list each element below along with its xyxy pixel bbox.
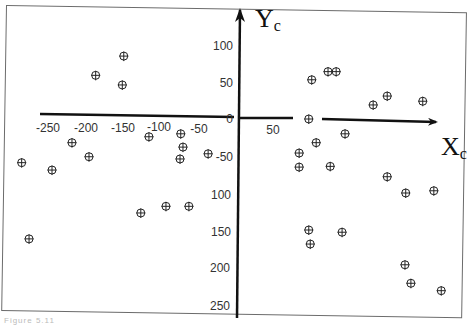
crosshair-marker-icon bbox=[369, 100, 378, 110]
x-axis-label: Xc bbox=[441, 132, 467, 162]
svg-text:-100: -100 bbox=[147, 120, 171, 134]
crosshair-marker-icon bbox=[338, 228, 347, 238]
crosshair-marker-icon bbox=[401, 189, 410, 199]
crosshair-marker-icon bbox=[184, 202, 193, 212]
svg-text:50: 50 bbox=[266, 123, 280, 137]
crosshair-marker-icon bbox=[304, 226, 313, 236]
figure-caption: Figure 5.11 bbox=[4, 316, 55, 325]
svg-text:100: 100 bbox=[213, 39, 233, 53]
crosshair-marker-icon bbox=[341, 129, 350, 139]
crosshair-marker-icon bbox=[295, 163, 304, 173]
crosshair-marker-icon bbox=[312, 138, 321, 148]
y-axis-label: Yc bbox=[255, 4, 281, 34]
crosshair-marker-icon bbox=[136, 208, 145, 218]
svg-text:-50: -50 bbox=[216, 150, 234, 164]
crosshair-marker-icon bbox=[332, 67, 341, 77]
crosshair-marker-icon bbox=[400, 260, 409, 270]
crosshair-marker-icon bbox=[324, 67, 333, 77]
crosshair-marker-icon bbox=[418, 97, 427, 107]
y-axis bbox=[235, 8, 245, 318]
crosshair-marker-icon bbox=[25, 234, 34, 244]
crosshair-marker-icon bbox=[48, 166, 57, 176]
crosshair-marker-icon bbox=[437, 286, 446, 296]
crosshair-marker-icon bbox=[176, 129, 185, 139]
crosshair-marker-icon bbox=[429, 186, 438, 196]
crosshair-marker-icon bbox=[304, 115, 313, 125]
crosshair-marker-icon bbox=[91, 71, 100, 81]
crosshair-marker-icon bbox=[67, 138, 76, 148]
crosshair-marker-icon bbox=[383, 172, 392, 182]
crosshair-marker-icon bbox=[406, 279, 415, 289]
svg-text:50: 50 bbox=[220, 76, 234, 90]
crosshair-marker-icon bbox=[204, 149, 213, 159]
svg-text:150: 150 bbox=[211, 225, 231, 239]
svg-text:-250: -250 bbox=[36, 121, 60, 135]
crosshair-marker-icon bbox=[307, 75, 316, 85]
svg-text:100: 100 bbox=[211, 188, 231, 202]
crosshair-marker-icon bbox=[85, 152, 94, 162]
svg-text:250: 250 bbox=[210, 299, 230, 313]
y-tick-labels: 100 50 0 -50 100 150 200 250 bbox=[210, 39, 233, 313]
svg-text:200: 200 bbox=[210, 261, 230, 275]
crosshair-marker-icon bbox=[161, 202, 170, 212]
scatter-plot: Yc Xc -250 -200 -150 -100 -50 50 100 50 … bbox=[0, 0, 473, 327]
svg-text:-200: -200 bbox=[74, 121, 98, 135]
crosshair-marker-icon bbox=[144, 132, 153, 142]
crosshair-marker-icon bbox=[383, 92, 392, 102]
crosshair-marker-icon bbox=[119, 52, 128, 62]
svg-text:0: 0 bbox=[226, 112, 233, 126]
crosshair-marker-icon bbox=[17, 158, 26, 168]
crosshair-marker-icon bbox=[306, 240, 315, 250]
x-tick-labels: -250 -200 -150 -100 -50 50 bbox=[36, 120, 280, 137]
crosshair-marker-icon bbox=[118, 80, 127, 90]
crosshair-marker-icon bbox=[295, 149, 304, 159]
svg-text:-150: -150 bbox=[111, 121, 135, 135]
crosshair-marker-icon bbox=[178, 143, 187, 153]
svg-text:-50: -50 bbox=[190, 122, 208, 136]
crosshair-marker-icon bbox=[176, 154, 185, 164]
crosshair-marker-icon bbox=[326, 162, 335, 172]
